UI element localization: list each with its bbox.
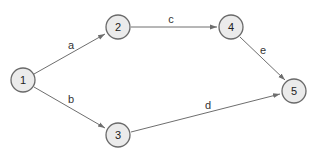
node-2: 2	[106, 15, 130, 39]
network-diagram: a b c d e 1 2 3 4 5	[0, 0, 317, 156]
node-3: 3	[106, 123, 130, 147]
node-label-1: 1	[20, 74, 26, 86]
node-label-4: 4	[228, 21, 234, 33]
edge-label-c: c	[168, 13, 174, 25]
edge-label-e: e	[260, 44, 266, 56]
edge-label-b: b	[68, 93, 74, 105]
node-4: 4	[219, 15, 243, 39]
edge-label-d: d	[205, 99, 211, 111]
node-5: 5	[282, 79, 306, 103]
node-label-5: 5	[291, 85, 297, 97]
edge-label-a: a	[68, 39, 75, 51]
node-label-3: 3	[115, 129, 121, 141]
node-label-2: 2	[115, 21, 121, 33]
node-1: 1	[11, 68, 35, 92]
